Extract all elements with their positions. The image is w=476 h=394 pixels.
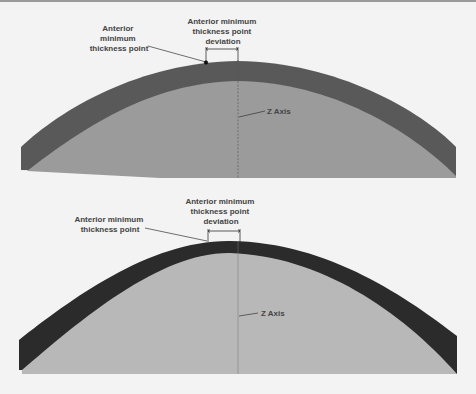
upper-min-point-label: Anterior minimum thickness point [90, 24, 149, 53]
upper-lens-inner-surface [27, 81, 456, 178]
upper-deviation-label: Anterior minimum thickness point deviati… [187, 17, 258, 46]
lower-lens-figure: Anterior minimum thickness point Anterio… [19, 197, 457, 374]
lower-min-point-label: Anterior minimum thickness point [74, 215, 145, 234]
upper-min-point-leader [148, 46, 206, 62]
lower-z-axis-label: Z Axis [261, 309, 285, 318]
lower-deviation-bracket [208, 229, 240, 242]
lower-min-point-leader [145, 228, 207, 241]
lens-diagram: Anterior minimum thickness point Anterio… [0, 0, 476, 394]
lower-deviation-label: Anterior minimum thickness point deviati… [185, 197, 256, 226]
upper-deviation-bracket [206, 47, 238, 61]
upper-lens-figure: Anterior minimum thickness point Anterio… [21, 17, 456, 178]
upper-min-point-marker [204, 61, 208, 65]
upper-z-axis-label: Z Axis [267, 107, 291, 116]
